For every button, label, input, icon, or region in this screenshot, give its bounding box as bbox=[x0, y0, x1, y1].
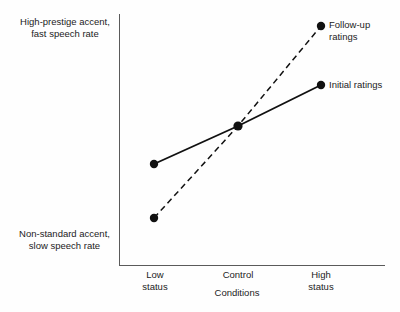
data-point-control bbox=[233, 121, 242, 130]
y-axis-bottom-label: Non-standard accent,slow speech rate bbox=[13, 228, 116, 252]
data-point-initial-high bbox=[317, 81, 325, 89]
series-label-initial-ratings: Initial ratings bbox=[329, 79, 382, 91]
x-tick-high-line1: High bbox=[311, 269, 331, 280]
series-label-followup-line2: ratings bbox=[329, 31, 358, 42]
series-label-follow-up-ratings: Follow-upratings bbox=[329, 19, 370, 43]
y-axis-bottom-label-line1: Non-standard accent, bbox=[19, 228, 110, 239]
x-axis-title: Conditions bbox=[205, 287, 269, 299]
y-axis-top-label-line1: High-prestige accent, bbox=[20, 16, 110, 27]
x-tick-control-line1: Control bbox=[223, 269, 254, 280]
x-tick-label-control: Control bbox=[213, 269, 263, 281]
y-axis-bottom-label-line2: slow speech rate bbox=[29, 240, 100, 251]
data-point-initial-low bbox=[150, 160, 158, 168]
y-axis-top-label: High-prestige accent,fast speech rate bbox=[16, 16, 114, 40]
data-point-followup-high bbox=[317, 22, 325, 30]
line-chart bbox=[0, 0, 400, 312]
x-tick-label-high-status: Highstatus bbox=[300, 269, 342, 293]
x-tick-low-line1: Low bbox=[146, 269, 163, 280]
series-label-initial-line1: Initial ratings bbox=[329, 79, 382, 90]
series-label-followup-line1: Follow-up bbox=[329, 19, 370, 30]
y-axis-top-label-line2: fast speech rate bbox=[31, 28, 99, 39]
data-point-followup-low bbox=[150, 214, 158, 222]
x-tick-low-line2: status bbox=[142, 281, 167, 292]
x-tick-high-line2: status bbox=[308, 281, 333, 292]
x-tick-label-low-status: Lowstatus bbox=[134, 269, 176, 293]
